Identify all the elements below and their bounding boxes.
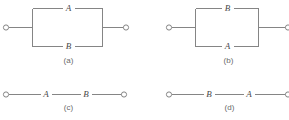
circuit-topology-figure: A B (a) B A (b) [0, 0, 289, 120]
panel-a-top-element-label: A [65, 3, 72, 13]
panel-c-first-element-label: A [42, 89, 49, 99]
panel-c: A B (c) [3, 89, 126, 113]
panel-c-right-terminal [121, 92, 126, 97]
panel-a-right-terminal [123, 25, 128, 30]
panel-d-first-element-label: B [206, 89, 212, 99]
panel-a-bottom-element-label: B [66, 41, 72, 51]
panel-b-caption: (b) [224, 56, 234, 65]
panel-a-caption: (a) [64, 56, 74, 65]
panel-b-right-terminal [285, 25, 289, 30]
panel-c-left-terminal [3, 92, 8, 97]
panel-b: B A (b) [166, 3, 289, 66]
panel-b-top-element-label: B [225, 3, 231, 13]
panel-d-second-element-label: A [245, 89, 252, 99]
panel-d-caption: (d) [225, 103, 235, 112]
panel-c-second-element-label: B [83, 89, 89, 99]
panel-a-left-terminal [3, 25, 8, 30]
panel-d-right-terminal [285, 92, 289, 97]
panel-d: B A (d) [166, 89, 289, 113]
panel-b-left-terminal [166, 25, 171, 30]
panel-a: A B (a) [3, 3, 128, 66]
panel-b-bottom-element-label: A [224, 41, 231, 51]
panel-c-caption: (c) [64, 103, 74, 112]
panel-d-left-terminal [166, 92, 171, 97]
